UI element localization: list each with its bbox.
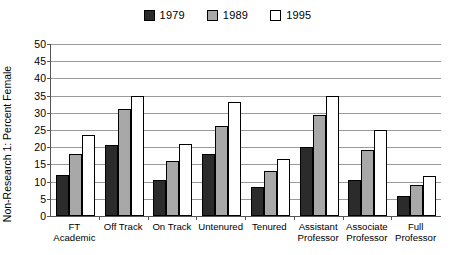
x-tick-mark: [196, 216, 197, 220]
legend-label-1995: 1995: [286, 10, 311, 21]
bar: [202, 154, 215, 216]
x-axis-labels: FT AcademicOff TrackOn TrackUntenuredTen…: [50, 221, 440, 243]
x-axis-label: Untenured: [196, 221, 245, 243]
bar: [313, 115, 326, 216]
legend-swatch-1979: [144, 10, 155, 21]
bar: [105, 145, 118, 216]
bar: [300, 147, 313, 216]
y-tick-label-30: 30: [34, 108, 46, 119]
bar-group: [100, 44, 149, 216]
y-tick-label-40: 40: [34, 73, 46, 84]
bar: [69, 154, 82, 216]
bar: [82, 135, 95, 216]
bar: [397, 196, 410, 216]
y-tick-mark-0: [47, 216, 51, 217]
x-tick-mark: [245, 216, 246, 220]
bar: [118, 109, 131, 216]
legend-item-1979: 1979: [144, 10, 185, 21]
bar: [166, 161, 179, 216]
y-tick-label-10: 10: [34, 176, 46, 187]
bar: [179, 144, 192, 216]
y-tick-label-35: 35: [34, 90, 46, 101]
bar: [410, 185, 423, 216]
bar: [56, 175, 69, 216]
legend-item-1989: 1989: [207, 10, 248, 21]
x-axis-label: FT Academic: [50, 221, 99, 243]
x-axis-label: Off Track: [99, 221, 148, 243]
bar: [215, 126, 228, 216]
x-axis-label: Tenured: [245, 221, 294, 243]
plot-area: 05101520253035404550: [50, 44, 441, 217]
bar-group: [197, 44, 246, 216]
bar: [131, 96, 144, 216]
bar-group: [149, 44, 198, 216]
x-tick-mark: [343, 216, 344, 220]
y-axis-title: Non-Research 1: Percent Female: [0, 58, 14, 230]
y-tick-label-25: 25: [34, 125, 46, 136]
bar: [153, 180, 166, 216]
legend-label-1989: 1989: [223, 10, 248, 21]
bar: [264, 171, 277, 216]
legend-label-1979: 1979: [160, 10, 185, 21]
y-tick-label-0: 0: [40, 211, 46, 222]
y-tick-label-50: 50: [34, 39, 46, 50]
y-tick-label-20: 20: [34, 142, 46, 153]
x-tick-mark: [99, 216, 100, 220]
x-axis-label: Assistant Professor: [294, 221, 343, 243]
bar: [348, 180, 361, 216]
bar-group: [295, 44, 344, 216]
x-axis-label: Full Professor: [391, 221, 440, 243]
x-tick-mark: [294, 216, 295, 220]
y-tick-label-45: 45: [34, 56, 46, 67]
bar: [228, 102, 241, 216]
bar: [423, 176, 436, 216]
x-tick-mark: [148, 216, 149, 220]
bar: [326, 96, 339, 216]
x-tick-mark: [391, 216, 392, 220]
bar: [374, 130, 387, 216]
bar-group: [344, 44, 393, 216]
legend-swatch-1995: [270, 10, 281, 21]
x-axis-label: On Track: [148, 221, 197, 243]
chart-legend: 197919891995: [0, 10, 455, 21]
bar-group: [51, 44, 100, 216]
bar-chart: 197919891995 Non-Research 1: Percent Fem…: [0, 0, 455, 255]
legend-swatch-1989: [207, 10, 218, 21]
y-tick-label-5: 5: [40, 194, 46, 205]
bar: [277, 159, 290, 216]
bar-groups: [51, 44, 441, 216]
bar: [251, 187, 264, 216]
x-axis-label: Associate Professor: [343, 221, 392, 243]
y-tick-label-15: 15: [34, 159, 46, 170]
bar-group: [246, 44, 295, 216]
legend-item-1995: 1995: [270, 10, 311, 21]
bar-group: [392, 44, 441, 216]
bar: [361, 150, 374, 216]
